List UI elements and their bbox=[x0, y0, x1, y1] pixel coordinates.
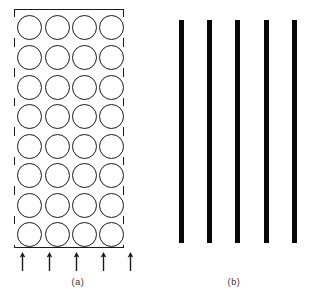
panel-b-caption: (b) bbox=[156, 277, 312, 287]
grid-circle bbox=[45, 75, 70, 100]
arrow-up-icon bbox=[19, 252, 26, 271]
grid-circle bbox=[45, 134, 70, 159]
arrow-row bbox=[14, 252, 124, 272]
grid-circle bbox=[17, 193, 42, 218]
grid-circle bbox=[72, 75, 97, 100]
grid-circle bbox=[72, 104, 97, 129]
arrow-up-icon bbox=[100, 252, 107, 271]
grid-circle bbox=[72, 45, 97, 70]
grid-circle bbox=[72, 222, 97, 247]
grid-circle bbox=[45, 163, 70, 188]
solid-bar bbox=[292, 20, 297, 243]
grid-circle bbox=[99, 193, 124, 218]
grid-circle bbox=[17, 134, 42, 159]
grid-circle bbox=[45, 45, 70, 70]
grid-circle bbox=[17, 222, 42, 247]
panel-b: (b) bbox=[156, 0, 312, 299]
solid-bar bbox=[235, 20, 240, 243]
grid-circle bbox=[17, 104, 42, 129]
solid-bar bbox=[264, 20, 269, 243]
grid-circle bbox=[72, 134, 97, 159]
grid-circle bbox=[45, 15, 70, 40]
grid-circle bbox=[99, 163, 124, 188]
bar-group bbox=[156, 0, 312, 299]
grid-circle bbox=[17, 15, 42, 40]
grid-circle bbox=[99, 75, 124, 100]
grid-circle bbox=[45, 193, 70, 218]
arrow-up-icon bbox=[46, 252, 53, 271]
arrow-up-icon bbox=[127, 252, 134, 271]
grid-circle bbox=[72, 15, 97, 40]
figure-root: (a) (b) bbox=[0, 0, 312, 299]
grid-circle bbox=[99, 15, 124, 40]
panel-a: (a) bbox=[0, 0, 156, 299]
grid-circle bbox=[72, 163, 97, 188]
arrow-up-icon bbox=[73, 252, 80, 271]
grid-circle bbox=[72, 193, 97, 218]
grid-circle bbox=[17, 45, 42, 70]
grid-circle bbox=[99, 222, 124, 247]
grid-circle bbox=[45, 104, 70, 129]
grid-circle bbox=[99, 104, 124, 129]
solid-bar bbox=[179, 20, 184, 243]
circle-array-box bbox=[14, 9, 124, 248]
grid-circle bbox=[45, 222, 70, 247]
grid-circle bbox=[17, 163, 42, 188]
solid-bar bbox=[207, 20, 212, 243]
grid-circle bbox=[99, 134, 124, 159]
grid-circle bbox=[17, 75, 42, 100]
circle-grid bbox=[14, 9, 124, 248]
panel-a-caption: (a) bbox=[0, 277, 156, 287]
grid-circle bbox=[99, 45, 124, 70]
